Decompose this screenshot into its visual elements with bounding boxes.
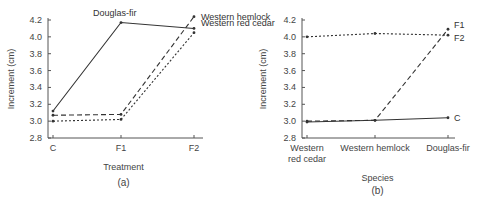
y-tick-label: 3.4 <box>29 82 42 92</box>
x-category-label: red cedar <box>288 154 326 164</box>
series-line-c <box>307 118 448 122</box>
series-line-western-hemlock <box>53 17 194 116</box>
data-point <box>447 28 450 31</box>
y-axis-title: Increment (cm) <box>6 49 16 110</box>
panel-label: (b) <box>371 185 383 196</box>
y-tick-label: 4.0 <box>283 32 296 42</box>
series-label: Douglas-fir <box>93 8 137 18</box>
y-tick-label: 3.0 <box>29 116 42 126</box>
y-tick-label: 3.8 <box>29 49 42 59</box>
data-point <box>52 110 55 113</box>
x-category-label: Douglas-fir <box>426 143 470 153</box>
y-tick-label: 3.2 <box>283 99 296 109</box>
series-label: Western red cedar <box>201 18 275 28</box>
y-tick-label: 2.8 <box>29 133 42 143</box>
y-tick-label: 2.8 <box>283 133 296 143</box>
series-line-f2 <box>307 33 448 36</box>
series-line-western-red-cedar <box>53 33 194 122</box>
data-point <box>52 114 55 117</box>
line-charts: 2.83.03.23.43.63.84.04.2CF1F2Increment (… <box>0 0 482 199</box>
y-tick-label: 3.2 <box>29 99 42 109</box>
x-axis-title: Species <box>361 173 394 183</box>
data-point <box>374 32 377 35</box>
series-line-f1 <box>307 29 448 121</box>
x-category-label: F2 <box>189 143 200 153</box>
x-category-label: F1 <box>116 143 127 153</box>
data-point <box>193 27 196 30</box>
figure: 2.83.03.23.43.63.84.04.2CF1F2Increment (… <box>0 0 482 199</box>
y-tick-label: 3.6 <box>283 66 296 76</box>
series-line-douglas-fir <box>53 23 194 112</box>
series-label: C <box>454 113 461 123</box>
data-point <box>120 118 123 121</box>
y-tick-label: 3.6 <box>29 66 42 76</box>
series-label: F1 <box>454 20 465 30</box>
y-tick-label: 3.0 <box>283 116 296 126</box>
data-point <box>447 116 450 119</box>
y-tick-label: 3.8 <box>283 49 296 59</box>
data-point <box>193 31 196 34</box>
series-label: F2 <box>454 33 465 43</box>
chart-panel-a: 2.83.03.23.43.63.84.04.2CF1F2Increment (… <box>6 8 275 188</box>
chart-panel-b: 2.83.03.23.43.63.84.04.2Westernred cedar… <box>258 15 470 196</box>
data-point <box>306 35 309 38</box>
y-axis-title: Increment (cm) <box>258 49 268 110</box>
data-point <box>306 121 309 124</box>
data-point <box>193 15 196 18</box>
panel-label: (a) <box>117 177 129 188</box>
data-point <box>374 119 377 122</box>
x-category-label: Western hemlock <box>340 143 410 153</box>
data-point <box>447 34 450 37</box>
x-category-label: C <box>50 143 57 153</box>
x-category-label: Western <box>290 143 323 153</box>
y-tick-label: 4.2 <box>283 15 296 25</box>
y-tick-label: 3.4 <box>283 82 296 92</box>
x-axis-title: Treatment <box>103 162 144 172</box>
data-point <box>120 21 123 24</box>
data-point <box>120 113 123 116</box>
data-point <box>52 120 55 123</box>
y-tick-label: 4.2 <box>29 15 42 25</box>
y-tick-label: 4.0 <box>29 32 42 42</box>
